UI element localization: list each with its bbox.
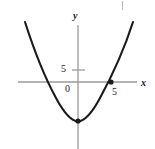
vertex-point-marker [75,118,80,123]
x-axis-label: x [141,78,146,88]
y-axis-label: y [73,11,77,21]
x-tick-label-5: 5 [112,87,117,97]
origin-label: 0 [65,84,70,94]
y-tick-label-5: 5 [61,64,66,74]
parabola-graph-figure: y x 5 0 5 [0,0,155,149]
graph-canvas [0,0,155,149]
parabola-curve [25,22,133,122]
corner-artifact-mark [122,1,123,10]
x-intercept-point-marker [108,79,113,84]
